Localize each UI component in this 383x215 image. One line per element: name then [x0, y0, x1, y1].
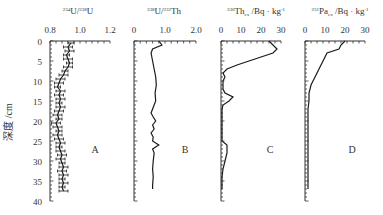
panel-b-title: 238U/232Th: [147, 6, 181, 16]
x-tick-label: 0: [303, 25, 308, 35]
x-tick-label: 0: [219, 25, 224, 35]
panel-c-title: 230Thex /Bq · kg-1: [227, 6, 286, 17]
x-tick-label: 10: [321, 25, 331, 35]
y-tick-label: 15: [33, 97, 43, 107]
y-tick-label: 0: [38, 37, 43, 47]
panel-b-label: B: [182, 144, 189, 155]
plot-area: 0.81.01.2051015202530354001.02.001020300…: [33, 25, 370, 207]
panel-d-label: D: [348, 144, 355, 155]
x-tick-label: 0: [132, 25, 137, 35]
data-line: [151, 41, 162, 189]
panel-a-title: 234U/238U: [63, 6, 94, 16]
figure: 深度 /cm 234U/238U 238U/232Th 230Thex /Bq …: [0, 0, 383, 215]
x-tick-label: 1.0: [159, 25, 171, 35]
data-line: [56, 43, 71, 191]
x-tick-label: 20: [341, 25, 351, 35]
y-tick-label: 5: [38, 57, 43, 67]
data-line: [308, 41, 345, 189]
panel-d-title: 231Paex /Bq · kg-1: [311, 6, 369, 17]
data-line: [222, 41, 277, 189]
x-tick-label: 20: [257, 25, 267, 35]
x-tick-label: 1.2: [104, 25, 115, 35]
y-axis-label: 深度 /cm: [2, 103, 14, 141]
panel-b: 01.02.0: [132, 25, 202, 201]
y-tick-label: 35: [33, 177, 43, 187]
panel-c-label: C: [267, 144, 274, 155]
panel-d: 0102030: [303, 25, 370, 201]
y-tick-label: 40: [33, 197, 43, 207]
x-tick-label: 2.0: [190, 25, 202, 35]
x-tick-label: 0.8: [44, 25, 56, 35]
x-tick-label: 30: [361, 25, 371, 35]
y-tick-label: 25: [33, 137, 43, 147]
panel-c: 0102030: [219, 25, 286, 201]
x-tick-label: 30: [277, 25, 287, 35]
y-tick-label: 30: [33, 157, 43, 167]
x-tick-label: 1.0: [74, 25, 86, 35]
panel-a: 0.81.01.20510152025303540: [33, 25, 116, 207]
panel-a-label: A: [91, 144, 99, 155]
x-tick-label: 10: [237, 25, 247, 35]
y-tick-label: 20: [33, 117, 43, 127]
y-tick-label: 10: [33, 77, 43, 87]
